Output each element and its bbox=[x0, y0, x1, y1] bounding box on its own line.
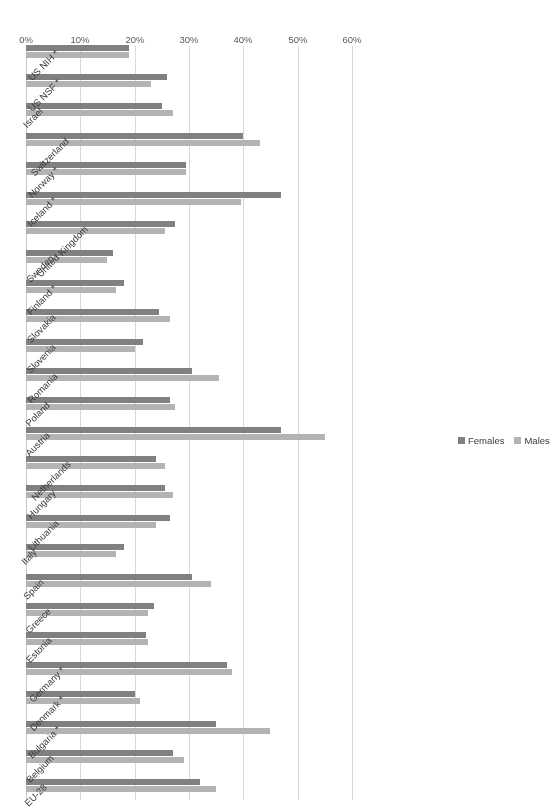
bar-row bbox=[26, 506, 352, 535]
bar-row bbox=[26, 154, 352, 183]
legend-label: Males bbox=[524, 435, 549, 446]
x-axis-ticks: 0%10%20%30%40%50%60% bbox=[26, 0, 352, 34]
bar-row bbox=[26, 682, 352, 711]
x-tick-label: 50% bbox=[288, 34, 307, 45]
bar-row bbox=[26, 418, 352, 447]
bar-females bbox=[26, 133, 243, 139]
bar-females bbox=[26, 103, 162, 109]
bar-males bbox=[26, 110, 173, 116]
bar-females bbox=[26, 779, 200, 785]
bar-row bbox=[26, 95, 352, 124]
bar-rows bbox=[26, 36, 352, 800]
bar-row bbox=[26, 447, 352, 476]
bar-males bbox=[26, 52, 129, 58]
bar-females bbox=[26, 221, 175, 227]
bar-males bbox=[26, 434, 325, 440]
bar-row bbox=[26, 124, 352, 153]
bar-females bbox=[26, 515, 170, 521]
bar-row bbox=[26, 300, 352, 329]
bar-males bbox=[26, 228, 165, 234]
bar-females bbox=[26, 192, 281, 198]
bar-females bbox=[26, 427, 281, 433]
legend-label: Females bbox=[468, 435, 504, 446]
x-tick-label: 40% bbox=[234, 34, 253, 45]
x-tick-label: 30% bbox=[179, 34, 198, 45]
bar-females bbox=[26, 45, 129, 51]
legend-item[interactable]: Males bbox=[514, 434, 549, 446]
bar-males bbox=[26, 698, 140, 704]
bar-females bbox=[26, 574, 192, 580]
x-tick-label: 20% bbox=[125, 34, 144, 45]
bar-row bbox=[26, 771, 352, 800]
gridline bbox=[352, 46, 353, 800]
bar-row bbox=[26, 271, 352, 300]
bar-females bbox=[26, 456, 156, 462]
bar-females bbox=[26, 280, 124, 286]
bar-row bbox=[26, 565, 352, 594]
legend-swatch bbox=[458, 437, 465, 444]
bar-row bbox=[26, 624, 352, 653]
bar-females bbox=[26, 339, 143, 345]
bar-row bbox=[26, 536, 352, 565]
bar-males bbox=[26, 581, 211, 587]
bar-males bbox=[26, 463, 165, 469]
bar-row bbox=[26, 389, 352, 418]
bar-row bbox=[26, 477, 352, 506]
bar-row bbox=[26, 359, 352, 388]
bar-row bbox=[26, 65, 352, 94]
bar-row bbox=[26, 330, 352, 359]
bar-row bbox=[26, 741, 352, 770]
bar-row bbox=[26, 712, 352, 741]
bar-males bbox=[26, 551, 116, 557]
bar-row bbox=[26, 653, 352, 682]
chart-legend: FemalesMales bbox=[458, 434, 554, 446]
x-tick-label: 10% bbox=[71, 34, 90, 45]
bar-row bbox=[26, 594, 352, 623]
x-tick-label: 0% bbox=[19, 34, 33, 45]
bar-males bbox=[26, 786, 216, 792]
bar-males bbox=[26, 287, 116, 293]
legend-item[interactable]: Females bbox=[458, 434, 504, 446]
plot-area: EU-28BelgiumBulgaria *Denmark *Germany *… bbox=[26, 36, 352, 800]
x-tick-label: 60% bbox=[342, 34, 361, 45]
bar-row bbox=[26, 183, 352, 212]
legend-swatch bbox=[514, 437, 521, 444]
bar-females bbox=[26, 74, 167, 80]
